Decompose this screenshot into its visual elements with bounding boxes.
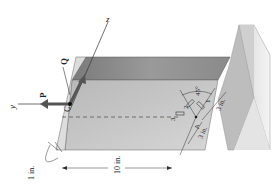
- bar-top-face: [72, 57, 230, 80]
- wall: [218, 25, 270, 150]
- force-Q-label: Q: [59, 58, 69, 65]
- diagram-canvas: z y P Q C 1 in. 10 in. 4: [0, 0, 279, 194]
- point-C-label: C: [63, 106, 72, 112]
- gage-1-label: 1: [204, 99, 212, 103]
- force-P-label: P: [38, 92, 48, 98]
- point-C-marker: [68, 102, 72, 106]
- z-axis-label: z: [105, 14, 110, 24]
- dim-thickness-label: 1 in.: [27, 166, 36, 180]
- dim-length-label: 10 in.: [113, 156, 122, 174]
- angle-label: 45°: [194, 86, 202, 96]
- gage-2-label: 2: [182, 105, 190, 109]
- y-axis-label: y: [7, 105, 17, 110]
- gage-3-label: 3: [169, 117, 177, 121]
